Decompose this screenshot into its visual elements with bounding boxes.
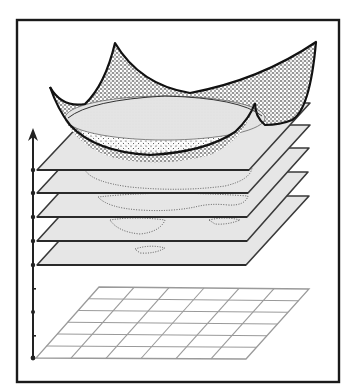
level-set-diagram bbox=[0, 0, 343, 390]
base-grid bbox=[36, 287, 309, 359]
vertical-axis bbox=[28, 128, 38, 360]
